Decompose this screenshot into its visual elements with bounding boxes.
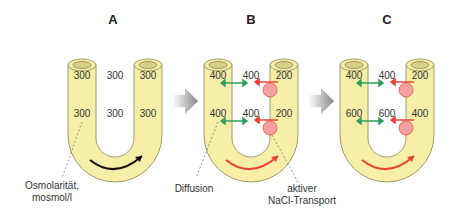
value: 600 [379, 108, 396, 119]
panel-c-title: C [382, 12, 391, 27]
value: 200 [276, 108, 293, 119]
value: 300 [107, 108, 124, 119]
transition-arrow-icon [308, 88, 334, 114]
value: 300 [140, 108, 157, 119]
transition-arrow-icon [172, 88, 198, 114]
transport-line1: aktiver [268, 183, 336, 195]
value: 400 [210, 70, 227, 81]
value: 200 [412, 70, 429, 81]
value: 400 [379, 70, 396, 81]
value: 400 [412, 108, 429, 119]
value: 200 [276, 70, 293, 81]
value: 300 [107, 70, 124, 81]
value: 400 [243, 108, 260, 119]
value: 300 [140, 70, 157, 81]
value: 300 [74, 108, 91, 119]
value: 600 [346, 108, 363, 119]
osmolarity-label: Osmolarität, mosmol/l [25, 180, 79, 204]
value: 400 [346, 70, 363, 81]
osmolarity-line2: mosmol/l [25, 192, 79, 204]
panel-a-title: A [108, 12, 117, 27]
value: 300 [74, 70, 91, 81]
transport-label: aktiver NaCl-Transport [268, 183, 336, 207]
diffusion-label: Diffusion [175, 183, 214, 195]
value: 400 [210, 108, 227, 119]
value: 400 [243, 70, 260, 81]
panel-b-title: B [246, 12, 255, 27]
transport-line2: NaCl-Transport [268, 195, 336, 207]
osmolarity-line1: Osmolarität, [25, 180, 79, 192]
